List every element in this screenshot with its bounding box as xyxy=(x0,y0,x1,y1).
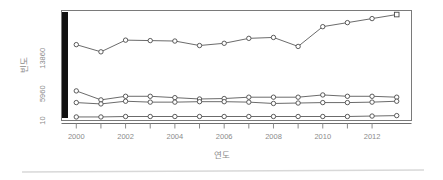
data-point-marker xyxy=(321,24,325,28)
data-point-marker xyxy=(370,100,374,104)
data-point-marker xyxy=(74,42,78,46)
series-4 xyxy=(74,113,399,119)
data-point-marker xyxy=(271,95,275,99)
data-point-marker xyxy=(222,99,226,103)
x-axis: 2000200220042006200820102012 xyxy=(62,124,412,141)
data-point-marker xyxy=(197,43,201,47)
series-layer xyxy=(74,12,399,119)
data-point-marker xyxy=(197,99,201,103)
y-tick-label: 5960 xyxy=(38,85,47,102)
data-point-marker xyxy=(345,100,349,104)
x-tick-label: 2004 xyxy=(167,132,184,141)
data-point-marker xyxy=(74,89,78,93)
data-point-marker xyxy=(99,115,103,119)
data-point-marker xyxy=(148,100,152,104)
data-point-marker xyxy=(395,99,399,103)
data-point-marker xyxy=(321,100,325,104)
y-axis-tick-labels: 10596013860 xyxy=(38,48,47,125)
y-axis-title: 빈도 xyxy=(19,57,29,73)
data-point-marker xyxy=(296,95,300,99)
data-point-marker xyxy=(271,101,275,105)
data-point-marker xyxy=(222,114,226,118)
data-point-marker xyxy=(222,41,226,45)
data-point-marker xyxy=(173,95,177,99)
data-point-marker xyxy=(99,50,103,54)
series-1 xyxy=(74,12,399,54)
x-tick-label: 2006 xyxy=(216,132,233,141)
data-point-marker xyxy=(74,100,78,104)
x-tick-label: 2008 xyxy=(265,132,282,141)
data-point-marker xyxy=(296,101,300,105)
x-tick-label: 2010 xyxy=(314,132,331,141)
x-tick-label: 2012 xyxy=(364,132,381,141)
data-point-marker xyxy=(148,114,152,118)
data-point-marker xyxy=(321,93,325,97)
data-point-marker xyxy=(74,115,78,119)
data-point-marker xyxy=(345,94,349,98)
data-point-marker xyxy=(173,39,177,43)
data-point-marker xyxy=(296,44,300,48)
data-point-marker xyxy=(197,114,201,118)
data-point-marker xyxy=(370,16,374,20)
line-chart-canvas: 10596013860 2000200220042006200820102012… xyxy=(0,0,443,180)
bottom-divider xyxy=(22,170,424,172)
data-point-marker xyxy=(271,114,275,118)
data-point-marker xyxy=(173,100,177,104)
plot-area-box xyxy=(62,11,412,121)
data-point-marker xyxy=(395,113,399,117)
data-point-marker xyxy=(247,100,251,104)
series-3 xyxy=(74,99,399,106)
data-point-marker xyxy=(321,114,325,118)
x-tick-label: 2002 xyxy=(117,132,134,141)
data-point-marker xyxy=(99,102,103,106)
x-tick-label: 2000 xyxy=(68,132,85,141)
y-tick-label: 13860 xyxy=(38,48,47,69)
data-point-marker xyxy=(271,35,275,39)
data-point-marker xyxy=(247,114,251,118)
data-point-marker xyxy=(247,95,251,99)
data-point-marker xyxy=(123,114,127,118)
data-point-marker xyxy=(173,114,177,118)
data-point-marker xyxy=(345,114,349,118)
data-point-marker xyxy=(345,20,349,24)
chart-figure: 10596013860 2000200220042006200820102012… xyxy=(0,0,443,180)
data-point-marker xyxy=(123,99,127,103)
data-point-marker xyxy=(148,94,152,98)
data-point-marker xyxy=(370,114,374,118)
data-point-marker xyxy=(370,94,374,98)
data-point-marker xyxy=(123,38,127,42)
x-axis-title: 연도 xyxy=(214,150,230,160)
data-point-marker xyxy=(148,38,152,42)
data-point-marker xyxy=(296,114,300,118)
y-tick-label: 10 xyxy=(38,116,47,124)
data-point-marker xyxy=(247,36,251,40)
data-point-marker xyxy=(394,12,399,17)
left-edge-black-bar xyxy=(62,12,68,118)
series-line xyxy=(76,15,396,52)
series-2 xyxy=(74,89,399,102)
data-point-marker xyxy=(123,94,127,98)
